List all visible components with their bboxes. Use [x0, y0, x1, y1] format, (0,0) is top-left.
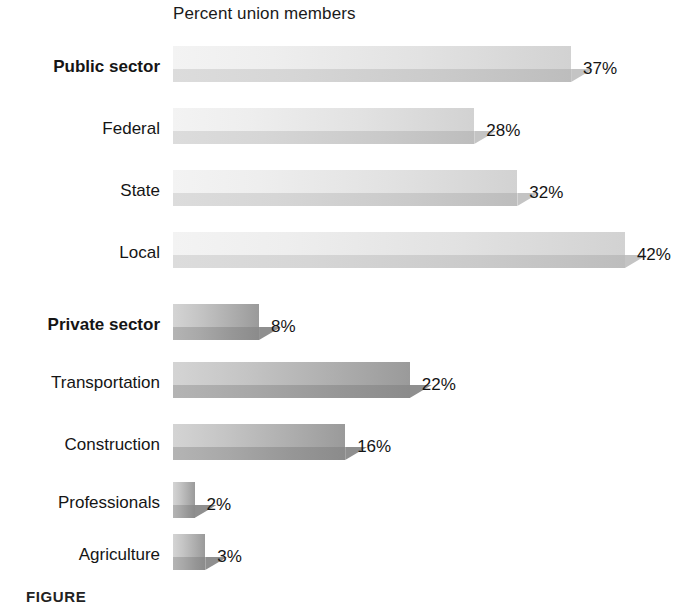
bar-top-face	[173, 170, 517, 193]
bar-transportation	[173, 362, 410, 408]
category-label-transportation: Transportation	[0, 372, 160, 394]
bar-bottom-face	[173, 557, 205, 570]
category-label-local: Local	[0, 242, 160, 264]
bar-bottom-face	[173, 505, 195, 518]
bar-value-label: 3%	[217, 547, 242, 567]
bar-row: Local42%	[0, 232, 689, 278]
bar-body	[173, 108, 474, 148]
bar-top-face	[173, 424, 345, 447]
bar-professionals	[173, 482, 195, 528]
bar-row: Professionals2%	[0, 482, 689, 528]
bar-bottom-face	[173, 255, 625, 268]
bar-bottom-face	[173, 69, 571, 82]
bar-top-face	[173, 108, 474, 131]
bar-private-sector	[173, 304, 259, 350]
bar-body	[173, 304, 259, 344]
bar-value-label: 32%	[529, 183, 563, 203]
category-label-construction: Construction	[0, 434, 160, 456]
bar-bottom-face	[173, 131, 474, 144]
bar-top-face	[173, 304, 259, 327]
category-label-federal: Federal	[0, 118, 160, 140]
bar-top-face	[173, 534, 205, 557]
bar-construction	[173, 424, 345, 470]
bar-body	[173, 424, 345, 464]
category-label-public-sector: Public sector	[0, 56, 160, 78]
bar-row: Agriculture3%	[0, 534, 689, 580]
bar-body	[173, 534, 205, 574]
bar-body	[173, 170, 517, 210]
bar-value-label: 22%	[422, 375, 456, 395]
bar-bottom-face	[173, 327, 259, 340]
bar-row: Public sector37%	[0, 46, 689, 92]
category-label-professionals: Professionals	[0, 492, 160, 514]
bar-top-face	[173, 362, 410, 385]
bar-top-face	[173, 482, 195, 505]
bar-agriculture	[173, 534, 205, 580]
chart-title: Percent union members	[173, 4, 356, 24]
bar-body	[173, 232, 625, 272]
bar-state	[173, 170, 517, 216]
bar-top-face	[173, 232, 625, 255]
bar-public-sector	[173, 46, 571, 92]
bar-row: Transportation22%	[0, 362, 689, 408]
bar-federal	[173, 108, 474, 154]
category-label-state: State	[0, 180, 160, 202]
bar-row: State32%	[0, 170, 689, 216]
bar-top-face	[173, 46, 571, 69]
bar-value-label: 16%	[357, 437, 391, 457]
bar-value-label: 37%	[583, 59, 617, 79]
bar-row: Construction16%	[0, 424, 689, 470]
bar-value-label: 28%	[486, 121, 520, 141]
bar-bottom-face	[173, 193, 517, 206]
bar-value-label: 8%	[271, 317, 296, 337]
bar-local	[173, 232, 625, 278]
bar-body	[173, 482, 195, 522]
bar-value-label: 2%	[207, 495, 232, 515]
bar-row: Private sector8%	[0, 304, 689, 350]
figure-caption: FIGURE	[26, 588, 86, 602]
category-label-private-sector: Private sector	[0, 314, 160, 336]
union-membership-bar-chart: Percent union members Public sector37%Fe…	[0, 0, 689, 602]
bar-bottom-face	[173, 385, 410, 398]
bar-row: Federal28%	[0, 108, 689, 154]
bar-bottom-face	[173, 447, 345, 460]
bar-body	[173, 46, 571, 86]
bar-value-label: 42%	[637, 245, 671, 265]
category-label-agriculture: Agriculture	[0, 544, 160, 566]
bar-body	[173, 362, 410, 402]
